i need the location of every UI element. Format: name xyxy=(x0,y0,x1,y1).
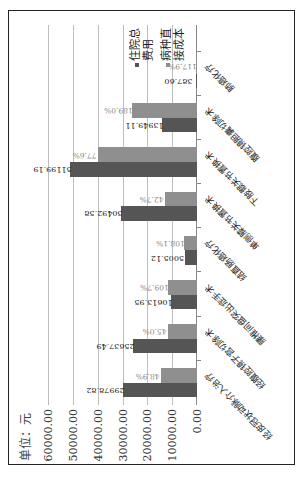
value-label: 51199.19 xyxy=(33,165,71,174)
value-label: 387.60 xyxy=(165,76,193,85)
chart-canvas: 单位：元 60000.0050000.0040000.0030000.00200… xyxy=(10,10,297,465)
y-tick-label: 40000.00 xyxy=(91,409,104,463)
legend-label: 病种直接成本 xyxy=(161,23,186,61)
category-label: 肺癌化疗 xyxy=(202,60,237,95)
ratio-label: 108.1% xyxy=(156,239,185,248)
category-tick xyxy=(197,139,201,140)
legend-swatch-icon xyxy=(166,63,170,67)
category-tick xyxy=(197,51,201,52)
ratio-label: 42.7% xyxy=(139,194,163,203)
legend: 住院总费用病种直接成本 xyxy=(130,23,193,67)
bar-total-cost xyxy=(196,74,197,89)
y-tick-label: 20000.00 xyxy=(141,409,154,463)
unit-label: 单位：元 xyxy=(16,413,33,461)
value-label: 10613.95 xyxy=(134,297,172,306)
value-label: 30492.58 xyxy=(85,209,123,218)
bar-total-cost xyxy=(133,339,197,354)
legend-item: 住院总费用 xyxy=(130,23,155,67)
value-label: 5005.12 xyxy=(151,253,184,262)
bar-total-cost xyxy=(70,162,197,177)
category-tick xyxy=(197,227,201,228)
y-tick-label: 50000.00 xyxy=(66,409,79,463)
category-label: 结直肠癌化疗 xyxy=(202,237,249,284)
ratio-label: 77.6% xyxy=(73,150,97,159)
bar-direct-cost xyxy=(168,280,197,295)
legend-item: 病种直接成本 xyxy=(161,23,186,67)
chart-frame: 单位：元 60000.0050000.0040000.0030000.00200… xyxy=(8,10,295,465)
category-tick xyxy=(197,316,201,317)
value-label: 13949.11 xyxy=(126,121,164,130)
bar-direct-cost xyxy=(98,147,197,162)
category-tick xyxy=(197,95,201,96)
bar-direct-cost xyxy=(184,236,197,251)
bar-direct-cost xyxy=(165,192,197,207)
bar-total-cost xyxy=(121,206,197,221)
y-tick-label: 60000.00 xyxy=(42,409,55,463)
bar-direct-cost xyxy=(161,368,197,383)
bar-direct-cost xyxy=(168,324,197,339)
ratio-label: 45.0% xyxy=(143,327,167,336)
value-label: 29978.82 xyxy=(86,386,124,395)
bar-total-cost xyxy=(171,295,197,310)
bar-total-cost xyxy=(162,118,197,133)
y-tick-label: 10000.00 xyxy=(166,409,179,463)
legend-label: 住院总费用 xyxy=(130,23,155,61)
bar-total-cost xyxy=(123,383,197,398)
category-tick xyxy=(197,360,201,361)
category-tick xyxy=(197,271,201,272)
ratio-label: 109.7% xyxy=(140,283,169,292)
ratio-label: 189.0% xyxy=(104,106,133,115)
gridline xyxy=(48,25,49,405)
ratio-label: 48.9% xyxy=(135,371,159,380)
gridline xyxy=(73,25,74,405)
bar-direct-cost xyxy=(132,103,197,118)
value-label: 25637.49 xyxy=(97,342,135,351)
plot-area: 29978.8248.9%25637.4945.0%10613.95109.7%… xyxy=(48,25,197,405)
y-tick-label: 0.00 xyxy=(191,409,204,463)
y-tick-label: 30000.00 xyxy=(116,409,129,463)
category-tick xyxy=(197,183,201,184)
bar-total-cost xyxy=(185,250,197,265)
legend-swatch-icon xyxy=(135,63,139,67)
